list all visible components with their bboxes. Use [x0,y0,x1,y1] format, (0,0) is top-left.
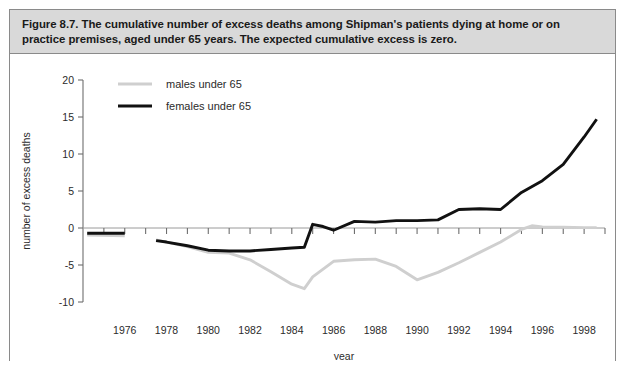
line-chart: 20151050-5-10number of excess deaths1976… [10,54,615,360]
y-tick-label: 20 [62,74,74,86]
x-tick-label: 1996 [531,324,555,336]
series-line-males [87,235,125,236]
legend-label-males: males under 65 [166,78,242,90]
x-tick-label: 1986 [322,324,346,336]
x-tick-label: 1978 [155,324,179,336]
series-line-males [156,226,597,289]
figure-frame: Figure 8.7. The cumulative number of exc… [9,9,616,361]
x-tick-label: 1998 [572,324,596,336]
x-tick-label: 1990 [405,324,429,336]
plot-area: 20151050-5-10number of excess deaths1976… [10,54,615,361]
y-tick-label: 5 [68,185,74,197]
x-tick-label: 1980 [197,324,221,336]
y-tick-label: -5 [65,259,74,271]
y-tick-label: -10 [59,296,74,308]
legend-label-females: females under 65 [166,100,251,112]
x-tick-label: 1982 [238,324,262,336]
x-tick-label: 1994 [489,324,513,336]
x-axis-title: year [334,350,355,360]
y-axis-title: number of excess deaths [20,132,32,249]
x-tick-label: 1976 [113,324,137,336]
y-tick-label: 15 [62,111,74,123]
x-tick-label: 1984 [280,324,304,336]
y-tick-label: 0 [68,222,74,234]
series-line-females [156,119,597,251]
figure-caption-band: Figure 8.7. The cumulative number of exc… [10,10,615,54]
figure-caption: Figure 8.7. The cumulative number of exc… [22,17,600,47]
x-tick-label: 1988 [364,324,388,336]
x-tick-label: 1992 [447,324,471,336]
y-tick-label: 10 [62,148,74,160]
figure-screenshot: Figure 8.7. The cumulative number of exc… [0,0,625,373]
